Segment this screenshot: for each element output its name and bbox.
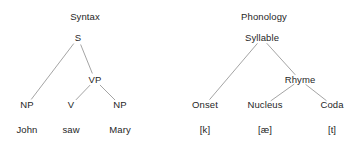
- tree-node-nuc: Nucleus: [247, 100, 282, 110]
- tree-terminal-w3: Mary: [109, 125, 131, 135]
- tree-terminal-p3: [t]: [328, 125, 336, 135]
- tree-edge: [81, 44, 93, 73]
- tree-node-coda: Coda: [320, 100, 343, 110]
- tree-node-s: S: [75, 33, 81, 43]
- tree-node-vp: VP: [89, 75, 102, 85]
- tree-terminal-w1: John: [16, 125, 37, 135]
- tree-terminal-w2: saw: [62, 125, 79, 135]
- tree-node-np1: NP: [20, 100, 33, 110]
- tree-edge: [267, 43, 296, 75]
- syntax-tree-title: Syntax: [70, 12, 100, 22]
- tree-edge: [76, 85, 90, 100]
- tree-terminal-p2: [æ]: [258, 125, 272, 135]
- diagram-canvas: SyntaxSNPVPVNPJohnsawMaryPhonologySyllab…: [0, 0, 361, 147]
- tree-node-rhyme: Rhyme: [285, 75, 316, 85]
- phonology-tree-title: Phonology: [241, 12, 287, 22]
- tree-edge: [31, 44, 74, 100]
- tree-node-v: V: [68, 100, 74, 110]
- tree-terminal-p1: [k]: [200, 125, 210, 135]
- tree-edge: [306, 84, 327, 100]
- tree-node-onset: Onset: [192, 100, 218, 110]
- tree-edge: [100, 85, 115, 100]
- tree-node-np2: NP: [113, 100, 126, 110]
- tree-edge: [210, 43, 258, 99]
- tree-node-syl: Syllable: [245, 33, 279, 43]
